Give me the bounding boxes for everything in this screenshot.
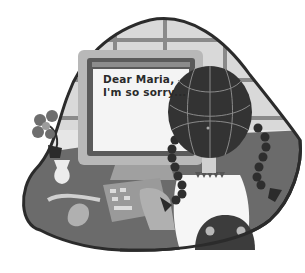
illustration: Dear Maria, I'm so sorry... <box>0 0 305 273</box>
screen-line-1: Dear Maria, <box>103 73 193 86</box>
screen-text: Dear Maria, I'm so sorry... <box>103 73 193 99</box>
monitor-stand <box>110 165 175 180</box>
scene-svg <box>0 0 305 273</box>
screen-line-2: I'm so sorry... <box>103 86 193 99</box>
vase <box>54 160 70 184</box>
